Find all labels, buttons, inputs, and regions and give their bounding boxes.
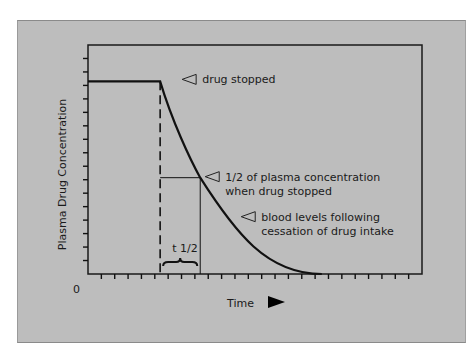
annotation-half-concentration: 1/2 of plasma concentration when drug st… xyxy=(205,171,380,198)
annotation-text: blood levels following xyxy=(261,211,380,224)
pointer-icon xyxy=(182,74,196,84)
pointer-icon xyxy=(205,172,219,182)
annotation-text: when drug stopped xyxy=(225,185,332,198)
y-axis-label: Plasma Drug Concentration xyxy=(56,99,69,250)
chart: drug stopped 1/2 of plasma concentration… xyxy=(0,0,476,363)
pointer-icon xyxy=(241,212,255,222)
half-life-label: t 1/2 xyxy=(172,242,198,255)
arrow-right-icon xyxy=(268,296,285,308)
annotation-blood-levels: blood levels following cessation of drug… xyxy=(241,211,394,238)
origin-label: 0 xyxy=(73,283,80,296)
annotation-text: 1/2 of plasma concentration xyxy=(225,171,380,184)
x-axis-label: Time xyxy=(226,297,254,310)
annotation-text: cessation of drug intake xyxy=(261,225,394,238)
annotation-drug-stopped: drug stopped xyxy=(182,73,275,86)
half-life-brace xyxy=(163,258,197,266)
annotation-text: drug stopped xyxy=(202,73,275,86)
